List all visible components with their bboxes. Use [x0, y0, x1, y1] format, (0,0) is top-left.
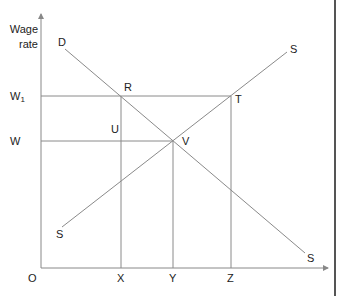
- x-tick-label: X: [117, 273, 124, 284]
- z-tick-label: Z: [227, 273, 234, 284]
- y-axis-label: Wage rate: [6, 22, 38, 52]
- y-axis-label-line2: rate: [6, 37, 38, 52]
- point-u-label: U: [111, 124, 119, 135]
- w1-tick-label: W1: [10, 91, 25, 104]
- labor-market-diagram: [0, 0, 339, 296]
- y-axis-label-line1: Wage: [6, 22, 38, 37]
- w-tick-label: W: [10, 136, 20, 147]
- point-t-label: T: [235, 94, 242, 105]
- right-border: [334, 0, 336, 296]
- origin-label: O: [28, 273, 37, 284]
- y-tick-label: Y: [169, 273, 176, 284]
- point-v-label: V: [182, 136, 189, 147]
- demand-curve: [65, 49, 305, 253]
- demand-label: D: [58, 37, 66, 48]
- point-r-label: R: [124, 82, 132, 93]
- demand-end-label: S: [307, 253, 314, 264]
- supply-curve: [62, 52, 287, 227]
- supply-bottom-label: S: [56, 229, 63, 240]
- supply-top-label: S: [290, 44, 297, 55]
